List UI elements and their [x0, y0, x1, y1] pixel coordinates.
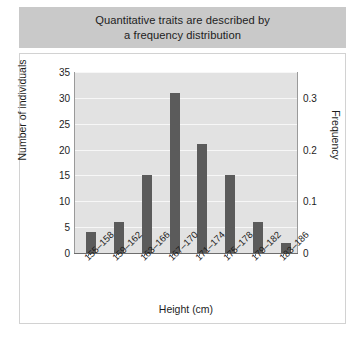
figure-title-line-1: Quantitative traits are described by — [95, 13, 270, 28]
y-axis-left-ticks: 05101520253035 — [44, 72, 70, 253]
gridline — [74, 175, 297, 176]
x-axis-title: Height (cm) — [74, 303, 298, 315]
x-axis-tick-mark — [116, 253, 117, 256]
figure-title-band: Quantitative traits are described by a f… — [19, 7, 346, 48]
y-axis-right-tick-label: 0.2 — [303, 144, 317, 155]
y-axis-left-tick-label: 35 — [48, 67, 70, 78]
y-axis-right-title: Frequency — [330, 75, 342, 195]
gridline — [74, 150, 297, 151]
x-axis-tick-mark — [144, 253, 145, 256]
y-axis-left-tick-label: 0 — [48, 248, 70, 259]
y-axis-right-ticks: 00.10.20.3 — [303, 72, 333, 253]
figure-title-line-2: a frequency distribution — [124, 28, 241, 43]
y-axis-left-tick-label: 30 — [48, 92, 70, 103]
x-axis-tick-mark — [199, 253, 200, 256]
y-axis-left-title: Number of individuals — [16, 50, 28, 170]
y-axis-left-line — [74, 72, 75, 254]
y-axis-right-line — [297, 72, 298, 254]
gridline — [74, 201, 297, 202]
figure: Quantitative traits are described by a f… — [0, 0, 358, 338]
x-axis-tick-mark — [172, 253, 173, 256]
x-axis-tick-mark — [227, 253, 228, 256]
y-axis-left-tick-label: 25 — [48, 118, 70, 129]
y-axis-left-tick-label: 5 — [48, 222, 70, 233]
y-axis-left-tick-label: 20 — [48, 144, 70, 155]
y-axis-left-tick-label: 15 — [48, 170, 70, 181]
y-axis-right-tick-label: 0.1 — [303, 196, 317, 207]
x-axis-ticks: 155–158159–162163–166167–170171–174175–1… — [74, 255, 298, 301]
y-axis-left-tick-label: 10 — [48, 196, 70, 207]
x-axis-tick-mark — [283, 253, 284, 256]
plot-area — [74, 72, 297, 253]
gridline — [74, 124, 297, 125]
gridline — [74, 72, 297, 73]
x-axis-tick-mark — [88, 253, 89, 256]
bar — [170, 93, 180, 253]
y-axis-right-tick-label: 0.3 — [303, 92, 317, 103]
y-axis-right-tick-label: 0 — [303, 248, 309, 259]
gridline — [74, 98, 297, 99]
x-axis-tick-mark — [255, 253, 256, 256]
